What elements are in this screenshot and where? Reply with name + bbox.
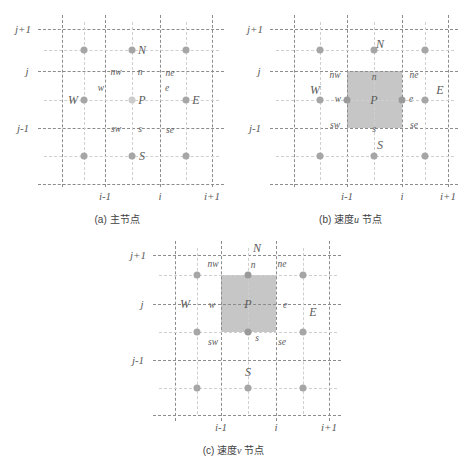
label-W: W	[68, 94, 78, 106]
label-e: e	[165, 84, 169, 94]
label-N: N	[253, 242, 261, 254]
label-N: N	[138, 44, 146, 56]
node-dot-w-face	[344, 97, 351, 104]
label-se: se	[278, 338, 286, 348]
major-gridline-h	[270, 71, 458, 72]
caption-symbol: u	[354, 214, 359, 225]
axis-label-x: i+1	[440, 191, 456, 202]
major-gridline-h	[153, 415, 341, 416]
label-w: w	[335, 95, 341, 105]
major-gridline-h	[270, 29, 458, 30]
node-dot	[422, 153, 429, 160]
node-dot	[81, 47, 88, 54]
label-se: se	[410, 121, 418, 131]
node-dot	[183, 153, 190, 160]
major-gridline-h	[38, 128, 224, 129]
label-S: S	[139, 150, 145, 162]
label-s: s	[138, 125, 142, 135]
major-gridline-v	[62, 15, 63, 187]
label-e: e	[409, 95, 413, 105]
axis-label-y: j+1	[247, 24, 263, 35]
axis-label-x: i	[274, 422, 277, 433]
node-dot	[300, 329, 307, 336]
label-N: N	[376, 38, 384, 50]
panel-caption: (a) 主节点	[0, 211, 234, 226]
node-dot	[194, 385, 201, 392]
axis-label-x: i	[400, 191, 403, 202]
label-S: S	[245, 366, 251, 378]
major-gridline-v	[212, 15, 213, 187]
node-dot	[81, 153, 88, 160]
panel-caption: (b) 速度u 节点	[234, 211, 467, 226]
node-dot-e-face	[399, 97, 406, 104]
node-dot-P	[129, 97, 136, 104]
label-nw: nw	[329, 71, 340, 81]
node-dot	[183, 47, 190, 54]
label-P: P	[370, 94, 377, 106]
node-dot-E	[422, 97, 429, 104]
label-sw: sw	[208, 338, 218, 348]
major-gridline-h	[270, 184, 458, 185]
node-dot	[317, 153, 324, 160]
axis-label-x: i-1	[341, 191, 353, 202]
axis-label-y: j-1	[17, 123, 29, 134]
node-dot	[300, 272, 307, 279]
panel-v-velocity-node: N W P E S nw n ne w e sw s se j+1 j j-1 …	[117, 226, 350, 453]
caption-prefix: (c)	[203, 445, 215, 456]
node-dot	[317, 47, 324, 54]
label-S: S	[377, 139, 383, 151]
node-dot-S	[129, 153, 136, 160]
label-P: P	[244, 298, 251, 310]
axis-label-y: j	[25, 66, 28, 77]
caption-text: 速度	[217, 445, 237, 456]
node-dot-s-face	[245, 329, 252, 336]
label-n: n	[372, 73, 377, 83]
label-w: w	[98, 84, 104, 94]
label-e: e	[283, 301, 287, 311]
label-sw: sw	[330, 121, 340, 131]
label-se: se	[166, 126, 174, 136]
axis-label-x: i+1	[321, 422, 337, 433]
node-dot	[300, 385, 307, 392]
node-dot	[194, 272, 201, 279]
node-dot-n-face	[245, 272, 252, 279]
caption-text: 速度	[334, 214, 354, 225]
axis-label-x: i-1	[215, 422, 227, 433]
label-ne: ne	[410, 71, 419, 81]
axis-label-y: j	[140, 299, 143, 310]
node-dot	[422, 47, 429, 54]
major-gridline-v	[160, 15, 161, 187]
axis-label-y: j-1	[132, 355, 144, 366]
axis-label-x: i-1	[99, 191, 111, 202]
major-gridline-v	[294, 15, 295, 187]
major-gridline-h	[270, 128, 458, 129]
label-P: P	[138, 94, 145, 106]
node-dot-N	[129, 47, 136, 54]
axis-label-y: j+1	[130, 250, 146, 261]
node-dot	[245, 385, 252, 392]
label-ne: ne	[278, 260, 287, 270]
caption-prefix: (a)	[94, 214, 106, 225]
major-gridline-v	[105, 15, 106, 187]
major-gridline-v	[448, 15, 449, 187]
major-gridline-v	[175, 241, 176, 421]
axis-label-y: j-1	[249, 123, 261, 134]
axis-label-y: j	[257, 66, 260, 77]
panel-main-node: N W P E S nw n ne w e sw s se j+1 j j-1 …	[0, 0, 234, 226]
label-W: W	[180, 298, 190, 310]
major-gridline-v	[329, 241, 330, 421]
label-sw: sw	[111, 125, 121, 135]
caption-suffix: 节点	[244, 445, 264, 456]
caption-symbol: v	[237, 445, 241, 456]
node-dot-W	[317, 97, 324, 104]
label-ne: ne	[166, 69, 175, 79]
major-gridline-v	[221, 241, 222, 421]
label-E: E	[192, 94, 199, 106]
node-dot	[371, 153, 378, 160]
label-W: W	[310, 84, 320, 96]
major-gridline-h	[38, 71, 224, 72]
node-dot-W	[194, 329, 201, 336]
label-E: E	[309, 306, 316, 318]
axis-label-y: j+1	[15, 24, 31, 35]
label-n: n	[251, 261, 256, 271]
